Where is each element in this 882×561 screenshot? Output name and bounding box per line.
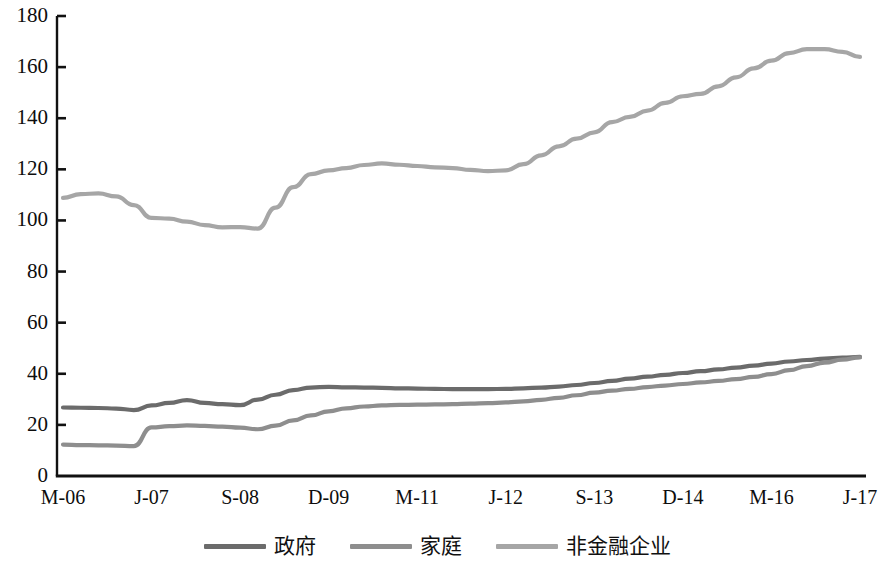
y-axis-tick-label: 0 (0, 465, 48, 486)
legend-label: 家庭 (420, 534, 462, 558)
x-axis-tick-label: J-17 (815, 487, 882, 507)
series-line-2 (63, 49, 860, 228)
x-axis-tick-label: S-13 (549, 487, 639, 507)
legend-swatch-icon (204, 544, 266, 549)
y-axis-tick-label: 140 (0, 107, 48, 128)
legend-swatch-icon (350, 544, 412, 549)
y-axis-tick-label: 120 (0, 158, 48, 179)
chart-series-layer (63, 49, 860, 446)
legend-item-1[interactable]: 家庭 (350, 534, 462, 558)
legend-item-0[interactable]: 政府 (204, 534, 316, 558)
y-axis-tick-label: 160 (0, 56, 48, 77)
x-axis-tick-label: M-16 (726, 487, 816, 507)
x-axis-tick-label: J-12 (461, 487, 551, 507)
y-axis-tick-label: 20 (0, 414, 48, 435)
x-axis-tick-label: M-11 (372, 487, 462, 507)
legend-label: 政府 (274, 534, 316, 558)
legend-swatch-icon (496, 544, 558, 549)
y-axis-tick-label: 40 (0, 363, 48, 384)
chart-legend: 政府家庭非金融企业 (0, 531, 874, 561)
y-axis-tick-label: 60 (0, 312, 48, 333)
x-axis-tick-label: D-14 (638, 487, 728, 507)
legend-item-2[interactable]: 非金融企业 (496, 534, 671, 558)
y-axis-tick-label: 100 (0, 209, 48, 230)
x-axis-tick-label: M-06 (18, 487, 108, 507)
x-axis-tick-label: D-09 (284, 487, 374, 507)
legend-label: 非金融企业 (566, 534, 671, 558)
chart-axes (56, 16, 866, 476)
y-axis-tick-label: 80 (0, 261, 48, 282)
x-axis-tick-label: J-07 (107, 487, 197, 507)
x-axis-tick-label: S-08 (195, 487, 285, 507)
y-axis-tick-label: 180 (0, 5, 48, 26)
